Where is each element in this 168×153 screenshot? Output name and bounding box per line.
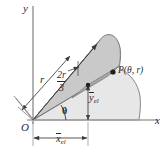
fraction-denominator: 3 xyxy=(57,83,66,94)
two-thirds-r-fraction-label: 2r 3 xyxy=(57,70,66,93)
theta-angle-label: θ xyxy=(62,106,67,116)
x-el-label: xel xyxy=(56,133,66,146)
origin-label: O xyxy=(21,122,29,133)
y-axis-label: y xyxy=(23,3,28,14)
point-P-marker xyxy=(110,69,115,74)
x-axis-label: x xyxy=(155,115,160,126)
radius-label: r xyxy=(40,74,44,85)
x-el-subscript: el xyxy=(61,138,66,146)
point-P-label: P(θ, r) xyxy=(118,66,143,76)
fraction-numerator: 2r xyxy=(57,70,66,81)
y-el-label: yel xyxy=(89,92,99,105)
centroid-marker-dot xyxy=(86,83,90,87)
polar-centroid-figure: y x O r θ P(θ, r) 2r 3 yel xel xyxy=(0,0,168,153)
y-el-subscript: el xyxy=(94,97,99,105)
